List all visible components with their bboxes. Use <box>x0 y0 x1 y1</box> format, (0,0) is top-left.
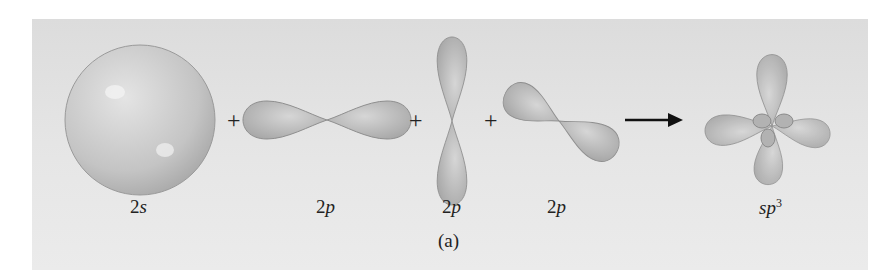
label-2s: 2s <box>130 196 147 218</box>
orbital-sp3 <box>704 55 833 186</box>
orbital-2s <box>65 45 215 195</box>
plus-operator: + <box>227 107 241 134</box>
label-2px: 2p <box>316 196 335 218</box>
reaction-arrow-icon <box>625 113 683 127</box>
orbital-2py <box>437 37 467 205</box>
plus-operator: + <box>409 107 423 134</box>
figure-caption: (a) <box>438 230 459 252</box>
orbital-2px <box>243 101 411 139</box>
label-2py: 2p <box>442 196 461 218</box>
label-2pz: 2p <box>547 196 566 218</box>
plus-operator: + <box>484 107 498 134</box>
label-sp3: sp3 <box>759 196 782 219</box>
orbital-2pz <box>497 77 625 168</box>
